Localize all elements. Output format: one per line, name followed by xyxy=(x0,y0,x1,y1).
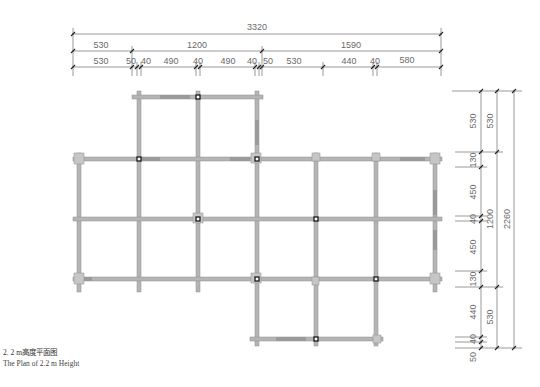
caption-english: The Plan of 2.2 m Height xyxy=(3,359,79,368)
dim-right-l3-2: 450 xyxy=(468,184,478,199)
node-marker xyxy=(255,277,259,281)
node-marker xyxy=(255,157,259,161)
dim-top-l2-1: 1200 xyxy=(187,40,207,50)
dim-right-l3-8: 50 xyxy=(468,352,478,362)
dim-right-l2-0: 530 xyxy=(485,113,495,128)
dim-right-l3-0: 530 xyxy=(468,113,478,128)
dim-right-l2-1: 1200 xyxy=(485,209,495,229)
dim-top-l3-11: 580 xyxy=(399,55,414,65)
node-marker xyxy=(314,337,318,341)
dim-top-l3-6: 40 xyxy=(247,56,257,66)
dim-right-l3-4: 450 xyxy=(468,239,478,254)
dim-top-l3-7: 50 xyxy=(263,56,273,66)
dim-top-l3-0: 530 xyxy=(93,56,108,66)
node-marker xyxy=(314,217,318,221)
dim-top-l3-3: 490 xyxy=(163,56,178,66)
floor-plan-drawing: 3320 530 1200 1590 530 50 40 490 40 490 … xyxy=(0,0,540,387)
dim-right-l3-1: 130 xyxy=(468,152,478,167)
dim-top-overall: 3320 xyxy=(247,22,267,32)
node-marker xyxy=(196,95,200,99)
dim-top-l3-9: 440 xyxy=(341,56,356,66)
right-dimension-labels: 530 130 450 40 450 130 440 40 50 530 120… xyxy=(468,113,512,362)
dim-top-l3-8: 530 xyxy=(286,56,301,66)
caption-chinese: 2. 2 m高度平面图 xyxy=(3,346,57,357)
node-marker xyxy=(374,277,378,281)
dim-top-l3-10: 40 xyxy=(370,56,380,66)
dim-top-l3-1: 50 xyxy=(126,56,136,66)
dim-right-l3-5: 130 xyxy=(468,271,478,286)
dim-right-l2-2: 530 xyxy=(485,309,495,324)
dim-top-l3-2: 40 xyxy=(141,56,151,66)
dim-right-l3-3: 40 xyxy=(468,214,478,224)
dim-right-l3-6: 440 xyxy=(468,304,478,319)
node-marker xyxy=(196,217,200,221)
node-marker xyxy=(137,157,141,161)
dim-top-l3-5: 490 xyxy=(220,56,235,66)
dim-top-l3-4: 40 xyxy=(193,56,203,66)
dim-right-l3-7: 40 xyxy=(468,334,478,344)
top-dimension-labels: 3320 530 1200 1590 530 50 40 490 40 490 … xyxy=(93,22,414,66)
dim-top-l2-0: 530 xyxy=(93,40,108,50)
dim-top-l2-2: 1590 xyxy=(341,40,361,50)
dim-right-overall: 2260 xyxy=(502,209,512,229)
